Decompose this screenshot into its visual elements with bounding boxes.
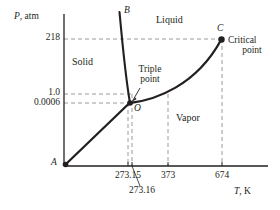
- sublimation-curve: [66, 104, 130, 165]
- point-label-c: C: [217, 24, 223, 34]
- point-label-o: O: [134, 104, 141, 114]
- y-axis-title: P, atm: [14, 12, 39, 22]
- point-label-a: A: [51, 158, 57, 168]
- region-label-solid: Solid: [72, 57, 93, 67]
- fusion-curve: [120, 12, 131, 103]
- annotation-triple-point-line1: Triple: [128, 64, 172, 74]
- annotation-critical-point-line1: Critical: [228, 35, 276, 45]
- annotation-triple-point: Triple point: [128, 64, 172, 85]
- annotation-critical-point: Critical point: [228, 35, 276, 56]
- point-marker-a: [63, 162, 69, 168]
- region-label-vapor: Vapor: [176, 113, 200, 123]
- phase-diagram-figure: P, atm 218 1.0 0.0006 273.15 273.16 373 …: [0, 0, 280, 210]
- y-tick-label-218: 218: [16, 33, 60, 43]
- annotation-triple-point-line2: point: [128, 74, 172, 84]
- x-tick-label-373: 373: [156, 171, 180, 181]
- y-tick-label-0.0006: 0.0006: [6, 98, 60, 108]
- point-marker-o: [127, 100, 133, 106]
- x-tick-label-273.16: 273.16: [118, 186, 166, 196]
- point-label-b: B: [124, 6, 130, 16]
- x-axis-title: T, K: [234, 187, 251, 197]
- y-axis-unit: , atm: [20, 11, 39, 21]
- annotation-critical-point-line2: point: [228, 45, 276, 55]
- x-tick-label-674: 674: [210, 171, 234, 181]
- x-tick-label-273.15: 273.15: [104, 171, 152, 181]
- point-marker-c: [218, 36, 224, 42]
- region-label-liquid: Liquid: [156, 15, 183, 25]
- x-axis-unit: , K: [239, 186, 251, 196]
